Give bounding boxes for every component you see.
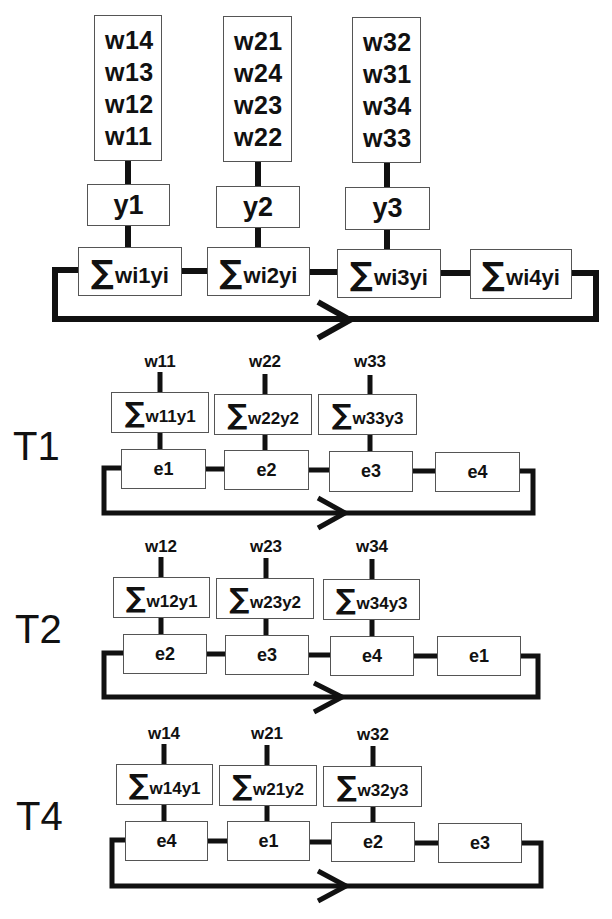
step-weight: w34 <box>356 537 388 557</box>
sigma-icon: ∑ <box>220 253 243 291</box>
step-label-t4: T4 <box>16 794 63 839</box>
step-weight: w33 <box>354 352 386 372</box>
weight-label: w13 <box>105 56 154 88</box>
element-label: e1 <box>153 459 173 480</box>
step-weight: w21 <box>251 724 283 744</box>
step-sum-node: ∑w14y1 <box>116 764 213 805</box>
sigma-icon: ∑ <box>227 398 247 431</box>
weight-stack-2: w21 w24 w23 w22 <box>223 16 292 162</box>
element-label: e2 <box>363 832 383 853</box>
weight-label: w33 <box>363 122 412 154</box>
sum-node-1: ∑wi1yi <box>78 247 182 296</box>
step-sum-node: ∑w12y1 <box>113 577 210 618</box>
sum-expression: wi4yi <box>506 265 560 290</box>
sigma-icon: ∑ <box>335 583 355 616</box>
element-label: e3 <box>470 833 490 854</box>
output-node-y1: y1 <box>87 184 170 226</box>
step-sum-node: ∑w23y2 <box>216 578 314 619</box>
sum-expression: w12y1 <box>147 592 198 611</box>
element-label: e1 <box>469 646 489 667</box>
sigma-icon: ∑ <box>91 253 114 291</box>
element-node: e1 <box>121 449 206 489</box>
sum-expression: wi1yi <box>115 263 169 288</box>
sum-expression: w34y3 <box>357 594 408 613</box>
sigma-icon: ∑ <box>232 769 252 802</box>
step-sum-node: ∑w21y2 <box>219 765 317 806</box>
weight-label: w21 <box>234 25 283 57</box>
weight-stack-1: w14 w13 w12 w11 <box>94 15 162 161</box>
element-label: e4 <box>156 831 176 852</box>
sum-node-2: ∑wi2yi <box>207 247 310 296</box>
element-label: e1 <box>258 831 278 852</box>
sigma-icon: ∑ <box>125 581 145 614</box>
output-label: y1 <box>113 190 143 221</box>
sum-expression: w23y2 <box>250 593 301 612</box>
element-node: e2 <box>331 822 415 862</box>
weight-label: w32 <box>363 26 412 58</box>
sigma-icon: ∑ <box>336 770 356 803</box>
sigma-icon: ∑ <box>124 396 144 429</box>
element-node: e4 <box>330 636 414 676</box>
weight-label: w23 <box>234 89 283 121</box>
step-label-t2: T2 <box>15 607 62 652</box>
sigma-icon: ∑ <box>128 768 148 801</box>
step-weight: w32 <box>357 725 389 745</box>
step-weight: w23 <box>250 537 282 557</box>
sum-node-3: ∑wi3yi <box>337 249 441 298</box>
weight-label: w12 <box>105 88 154 120</box>
element-node: e1 <box>227 821 310 861</box>
sum-expression: w22y2 <box>248 409 299 428</box>
element-node: e2 <box>123 634 207 674</box>
element-label: e4 <box>362 646 382 667</box>
element-node: e2 <box>224 450 309 490</box>
sum-expression: w11y1 <box>146 407 196 426</box>
element-label: e2 <box>155 644 175 665</box>
weight-stack-3: w32 w31 w34 w33 <box>352 17 421 163</box>
step-weight: w12 <box>145 537 177 557</box>
weight-label: w24 <box>234 57 283 89</box>
weight-label: w11 <box>105 120 152 152</box>
step-sum-node: ∑w32y3 <box>323 766 422 807</box>
element-node: e3 <box>329 451 413 492</box>
sum-expression: w21y2 <box>253 780 304 799</box>
sigma-icon: ∑ <box>482 255 505 293</box>
step-weight: w11 <box>144 352 175 372</box>
sum-expression: w14y1 <box>150 779 201 798</box>
sigma-icon: ∑ <box>331 398 351 431</box>
weight-label: w34 <box>363 90 412 122</box>
element-node: e1 <box>437 636 521 676</box>
output-label: y3 <box>372 193 402 224</box>
sigma-icon: ∑ <box>350 255 373 293</box>
step-sum-node: ∑w11y1 <box>111 392 209 433</box>
step-sum-node: ∑w34y3 <box>323 579 420 620</box>
sigma-icon: ∑ <box>229 582 249 615</box>
step-sum-node: ∑w33y3 <box>318 394 417 435</box>
weight-label: w14 <box>105 24 154 56</box>
step-weight: w14 <box>148 724 180 744</box>
element-label: e4 <box>467 462 487 483</box>
sum-expression: wi2yi <box>244 263 298 288</box>
step-sum-node: ∑w22y2 <box>214 394 312 435</box>
sum-node-4: ∑wi4yi <box>470 249 572 299</box>
sum-expression: w33y3 <box>353 409 404 428</box>
step-label-t1: T1 <box>13 424 60 469</box>
sum-expression: w32y3 <box>358 781 409 800</box>
weight-label: w22 <box>234 121 283 153</box>
element-label: e3 <box>361 461 381 482</box>
step-weight: w22 <box>249 352 281 372</box>
output-node-y3: y3 <box>345 187 430 230</box>
output-label: y2 <box>243 192 273 223</box>
element-node: e3 <box>438 823 522 863</box>
element-node: e3 <box>225 635 309 675</box>
element-label: e2 <box>256 460 276 481</box>
output-node-y2: y2 <box>216 186 300 228</box>
weight-label: w31 <box>363 58 412 90</box>
element-node: e4 <box>435 452 520 492</box>
element-label: e3 <box>257 645 277 666</box>
sum-expression: wi3yi <box>374 265 428 290</box>
element-node: e4 <box>125 821 208 861</box>
